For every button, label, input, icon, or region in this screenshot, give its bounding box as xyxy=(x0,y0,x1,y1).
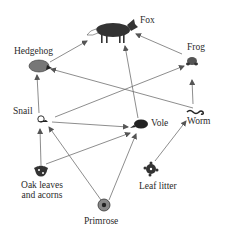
edge-oak-vole xyxy=(46,133,130,164)
edge-snail-vole xyxy=(52,122,128,127)
edge-primrose-vole xyxy=(109,134,136,200)
edge-snail-frog xyxy=(55,66,184,117)
label-leaf-litter: Leaf litter xyxy=(139,181,177,191)
label-oak-line2: and acorns xyxy=(16,190,68,200)
edge-oak-snail xyxy=(40,129,41,165)
label-vole: Vole xyxy=(151,118,168,128)
edge-vole-fox xyxy=(125,46,138,118)
edge-hedgehog-fox xyxy=(50,41,87,62)
label-oak-leaves: Oak leaves and acorns xyxy=(16,180,68,200)
vole-icon xyxy=(130,120,148,129)
snail-icon xyxy=(37,116,48,122)
edge-worm-frog xyxy=(192,80,193,104)
label-hedgehog: Hedgehog xyxy=(14,46,53,56)
worm-icon xyxy=(187,111,203,115)
oak-leaves-icon xyxy=(34,166,48,177)
label-snail: Snail xyxy=(13,106,33,116)
label-fox: Fox xyxy=(140,15,155,25)
frog-icon xyxy=(186,57,198,65)
label-worm: Worm xyxy=(187,116,211,126)
label-primrose: Primrose xyxy=(84,216,118,226)
edge-frog-fox xyxy=(136,34,182,54)
label-frog: Frog xyxy=(187,42,205,52)
primrose-icon xyxy=(98,199,110,211)
label-oak-line1: Oak leaves xyxy=(16,180,68,190)
edge-snail-hedgehog xyxy=(37,75,39,113)
edge-worm-hedgehog xyxy=(51,69,193,108)
fox-icon xyxy=(87,19,138,43)
leaf-litter-icon xyxy=(144,162,159,177)
hedgehog-icon xyxy=(29,60,52,72)
